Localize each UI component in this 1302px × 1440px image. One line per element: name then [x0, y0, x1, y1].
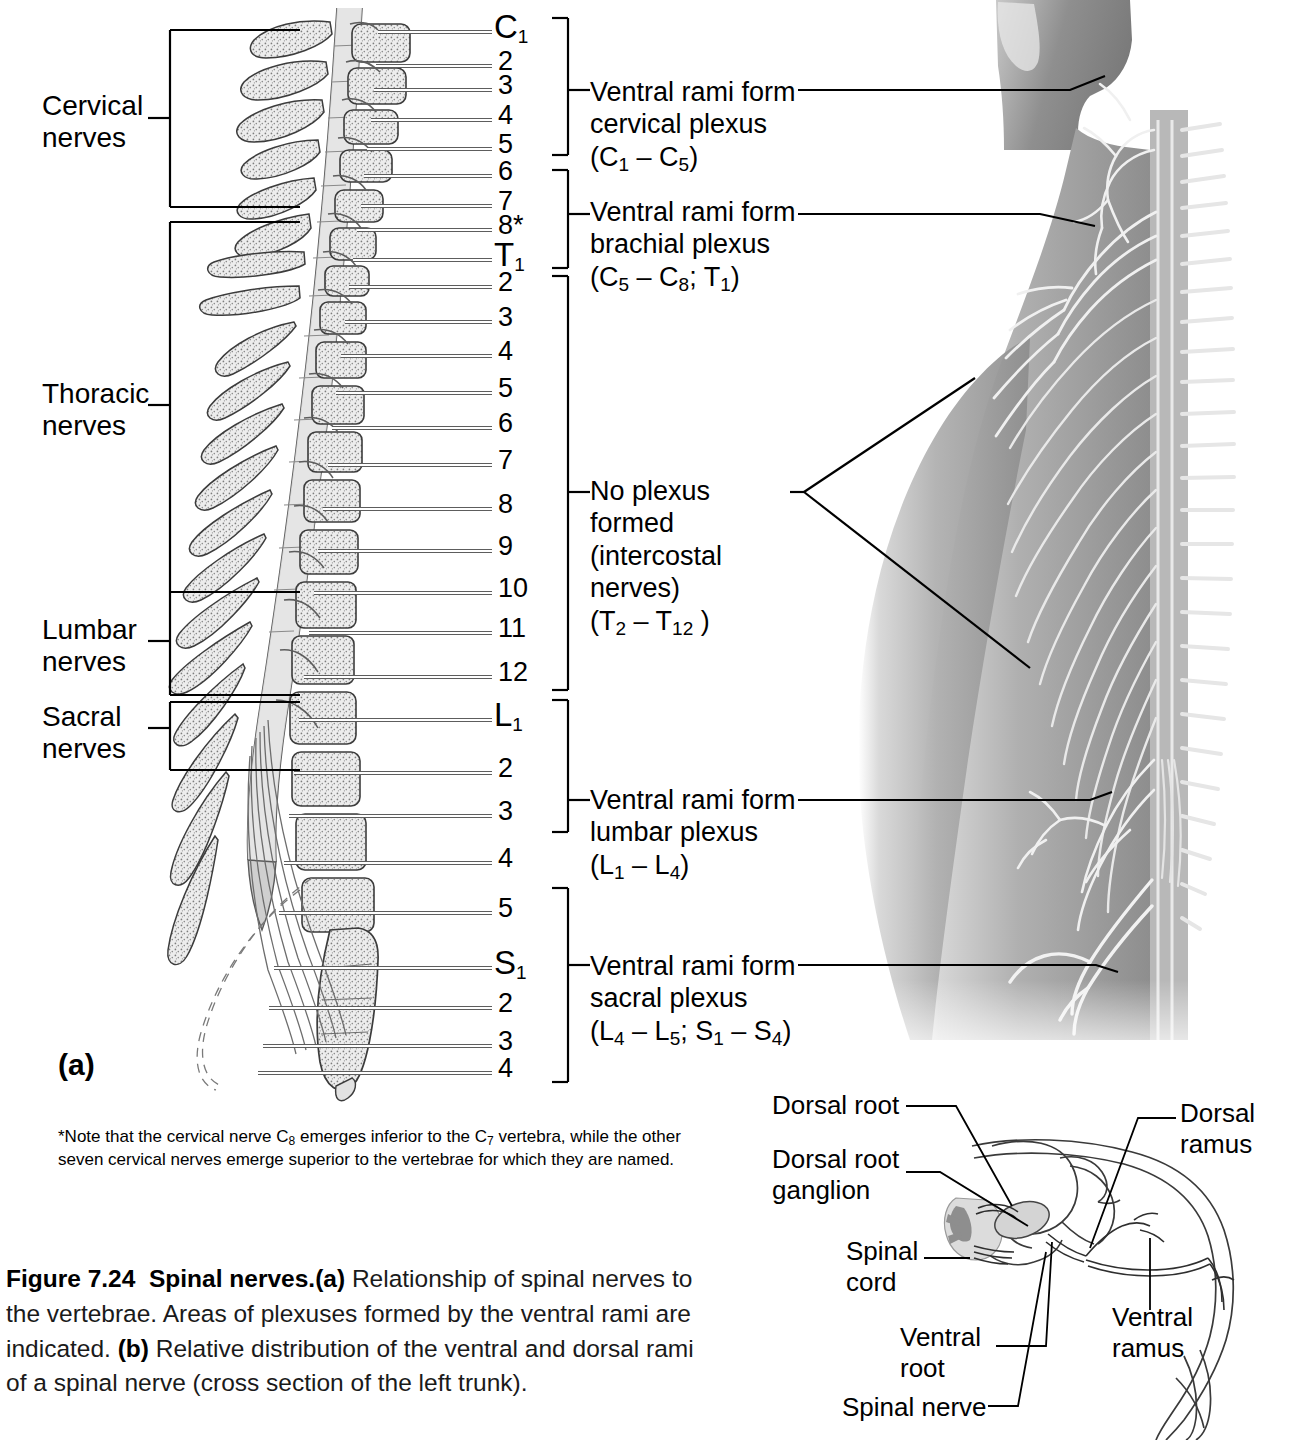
panel-b-cross-section: Dorsal root Dorsal root ganglion Spinal …	[760, 1080, 1302, 1440]
figure-caption: Figure 7.24 Spinal nerves.(a) Relationsh…	[6, 1262, 706, 1401]
figure-number: Figure 7.24	[6, 1265, 135, 1292]
caption-b-letter: (b)	[118, 1335, 149, 1362]
leader-lines-panel-a	[0, 0, 1302, 1100]
leader-lines-panel-b	[760, 1080, 1302, 1440]
footnote-c8: *Note that the cervical nerve C8 emerges…	[58, 1126, 758, 1172]
figure-title: Spinal nerves.	[149, 1265, 315, 1292]
caption-a-letter: (a)	[315, 1265, 345, 1292]
